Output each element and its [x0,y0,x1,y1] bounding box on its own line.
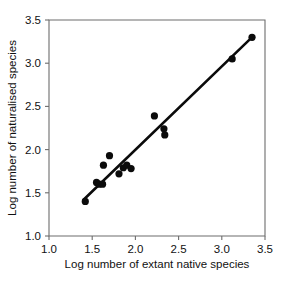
y-axis-tick-labels: 1.01.52.02.53.03.5 [25,14,41,242]
x-tick-label: 1.0 [41,243,57,255]
data-point [106,152,113,159]
regression-line [84,36,253,199]
data-point [248,34,255,41]
fit-line [84,36,253,199]
data-point [82,198,89,205]
y-tick-label: 3.0 [25,57,41,69]
data-point [99,181,106,188]
y-tick-label: 2.5 [25,100,41,112]
data-point [100,162,107,169]
y-tick-label: 2.0 [25,144,41,156]
y-tick-label: 3.5 [25,14,41,26]
y-axis-ticks [45,20,49,236]
y-axis-label: Log number of naturalised species [6,40,18,216]
x-tick-label: 2.0 [127,243,143,255]
data-point [229,55,236,62]
x-axis-ticks [49,236,265,240]
data-point [160,125,167,132]
x-tick-label: 3.0 [214,243,230,255]
x-tick-label: 1.5 [84,243,100,255]
y-tick-label: 1.5 [25,187,41,199]
x-axis-tick-labels: 1.01.52.02.53.03.5 [41,243,273,255]
data-point [115,170,122,177]
x-tick-label: 2.5 [171,243,187,255]
data-point [127,165,134,172]
x-axis-label: Log number of extant native species [65,258,250,270]
scatter-plot: 1.01.52.02.53.03.5 1.01.52.02.53.03.5 Lo… [0,0,284,282]
figure-container: 1.01.52.02.53.03.5 1.01.52.02.53.03.5 Lo… [0,0,284,282]
data-point [161,131,168,138]
x-tick-label: 3.5 [257,243,273,255]
y-tick-label: 1.0 [25,230,41,242]
data-point [151,112,158,119]
